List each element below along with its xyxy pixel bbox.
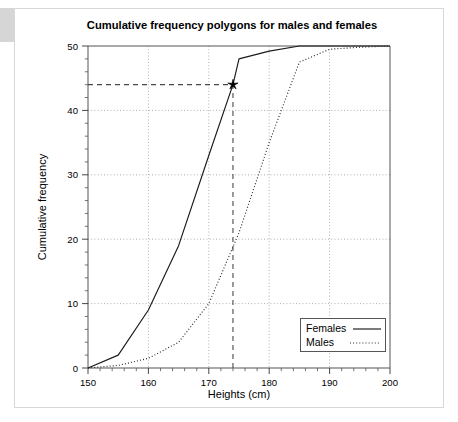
x-tick-label: 190 — [322, 377, 338, 388]
chart-title: Cumulative frequency polygons for males … — [87, 19, 377, 31]
page-root: Cumulative frequency polygons for males … — [0, 0, 458, 422]
y-tick-label: 50 — [67, 41, 78, 52]
cumulative-frequency-chart: Cumulative frequency polygons for males … — [0, 0, 458, 422]
x-tick-label: 170 — [201, 377, 217, 388]
chart-legend: Females Males — [301, 319, 386, 352]
x-tick-label: 200 — [382, 377, 398, 388]
x-axis-label: Heights (cm) — [208, 388, 270, 400]
y-tick-label: 10 — [67, 298, 78, 309]
y-tick-label: 20 — [67, 234, 78, 245]
y-axis-label: Cumulative frequency — [36, 153, 48, 260]
legend-label-males: Males — [306, 336, 334, 348]
x-tick-label: 160 — [140, 377, 156, 388]
x-tick-label: 150 — [80, 377, 96, 388]
x-tick-label: 180 — [261, 377, 277, 388]
y-tick-label: 0 — [73, 363, 78, 374]
annotation-guides — [88, 85, 233, 368]
y-tick-label: 30 — [67, 169, 78, 180]
legend-label-females: Females — [306, 322, 346, 334]
y-tick-label: 40 — [67, 105, 78, 116]
